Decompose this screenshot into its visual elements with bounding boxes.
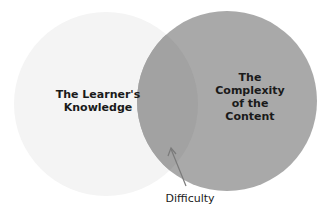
content-complexity-label: The Complexity of the Content <box>205 71 295 123</box>
label-line: Knowledge <box>38 101 158 114</box>
label-line: The <box>205 71 295 84</box>
label-line: The Learner's <box>38 88 158 101</box>
label-line: Content <box>205 110 295 123</box>
label-line: Complexity <box>205 84 295 97</box>
difficulty-label: Difficulty <box>155 192 225 205</box>
learner-knowledge-label: The Learner's Knowledge <box>38 88 158 114</box>
label-line: of the <box>205 97 295 110</box>
